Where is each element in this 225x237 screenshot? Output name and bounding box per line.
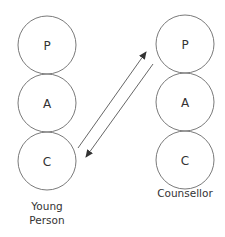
transaction-diagram: P A C Young Person P A C Counsellor xyxy=(0,0,225,237)
young-person-child-label: C xyxy=(43,155,51,169)
young-person-label-line2: Person xyxy=(29,214,64,226)
counsellor-adult-label: A xyxy=(181,96,190,110)
counsellor-label: Counsellor xyxy=(157,187,213,199)
counsellor-parent-label: P xyxy=(181,38,188,52)
counsellor-ego-states: P A C Counsellor xyxy=(156,15,214,199)
arrow-down-parent-to-child xyxy=(86,64,153,157)
arrow-up-child-to-parent xyxy=(78,52,146,148)
counsellor-child-label: C xyxy=(181,154,189,168)
young-person-label-line1: Young xyxy=(30,200,62,212)
young-person-adult-label: A xyxy=(43,97,52,111)
young-person-parent-label: P xyxy=(43,39,50,53)
young-person-ego-states: P A C Young Person xyxy=(18,16,76,226)
